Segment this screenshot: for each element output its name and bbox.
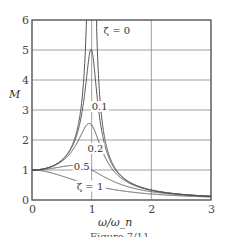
y-tick-label: 4 (22, 74, 29, 87)
tick-labels: 01230123456 (22, 14, 215, 216)
x-tick-label: 1 (89, 203, 96, 216)
curve-annotations: ζ = 00.10.20.5ζ = 1 (73, 25, 133, 192)
y-tick-label: 1 (22, 164, 29, 177)
y-tick-label: 5 (22, 44, 29, 57)
x-tick-label: 3 (208, 203, 215, 216)
curve-label: 0.1 (92, 101, 108, 112)
y-tick-label: 0 (22, 194, 29, 207)
x-tick-label: 0 (29, 203, 36, 216)
y-tick-label: 3 (22, 104, 29, 117)
curve-label: ζ = 0 (104, 25, 131, 36)
grid-lines (32, 20, 211, 200)
x-axis-label: ω/ω_n (98, 216, 132, 229)
magnification-chart: 01230123456 ζ = 00.10.20.5ζ = 1 M ω/ω_n … (0, 0, 227, 237)
curve-label: 0.5 (74, 161, 90, 172)
x-tick-label: 2 (148, 203, 155, 216)
curve-zeta-0-1 (32, 49, 211, 196)
y-axis-label: M (8, 88, 21, 101)
y-tick-label: 6 (22, 14, 29, 27)
curve-zeta-0-2 (32, 123, 211, 196)
curve-label: ζ = 1 (77, 181, 104, 192)
curves (32, 20, 211, 197)
curve-zeta-0 (32, 20, 87, 170)
curve-label: 0.2 (87, 143, 103, 154)
curve-zeta-1 (32, 170, 211, 197)
y-tick-label: 2 (22, 134, 29, 147)
figure-caption: Figure 7/11 (90, 231, 149, 237)
